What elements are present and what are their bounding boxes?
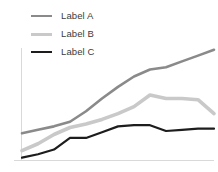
line-chart: Label A Label B Label C [0, 0, 218, 172]
legend-item-label-c: Label C [31, 45, 151, 59]
legend-label-c: Label C [61, 47, 94, 57]
legend-item-label-b: Label B [31, 27, 151, 41]
line-swatch-b-icon [31, 33, 52, 36]
series-line-label-b [22, 95, 214, 151]
chart-legend: Label A Label B Label C [31, 9, 151, 63]
legend-label-a: Label A [61, 11, 93, 21]
line-swatch-a-icon [31, 15, 52, 17]
legend-label-b: Label B [61, 29, 94, 39]
series-line-label-c [22, 125, 214, 157]
legend-item-label-a: Label A [31, 9, 151, 23]
line-swatch-c-icon [31, 51, 52, 53]
